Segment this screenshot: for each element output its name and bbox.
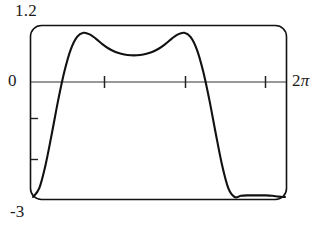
plot-canvas (0, 0, 323, 231)
x-max-number: 2 (292, 71, 301, 90)
y-zero-label: 0 (8, 72, 17, 89)
y-min-label: -3 (10, 203, 25, 220)
y-max-label: 1.2 (15, 2, 37, 19)
x-max-label: 2π (292, 72, 309, 89)
plot-figure: 1.2 0 -3 2π (0, 0, 323, 231)
pi-symbol: π (301, 71, 310, 90)
